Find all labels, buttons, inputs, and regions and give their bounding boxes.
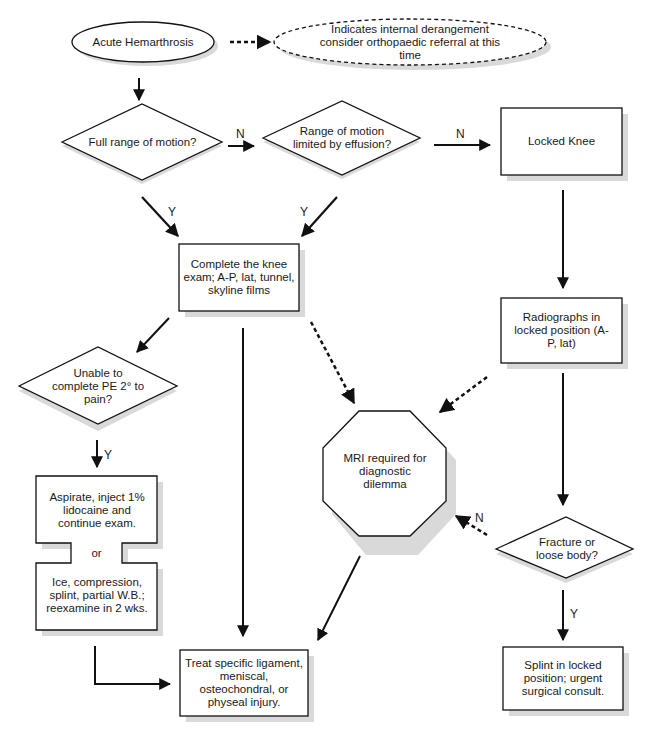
mri-label: MRI required for diagnostic dilemma	[338, 450, 432, 492]
note-node-label: Indicates internal derangement consider …	[318, 22, 502, 62]
full-rom-label: Full range of motion?	[85, 132, 200, 152]
splint-label: Splint in locked position; urgent surgic…	[513, 647, 613, 710]
edge-label-no-2: N	[456, 127, 465, 141]
rom-effusion-label: Range of motion limited by effusion?	[290, 124, 394, 152]
complete-exam-label: Complete the knee exam; A-P, lat, tunnel…	[183, 244, 295, 311]
start-node-label: Acute Hemarthrosis	[72, 32, 214, 52]
edge-label-yes-1: Y	[168, 205, 176, 219]
edge-label-yes-2: Y	[300, 205, 308, 219]
edge-label-yes-4: Y	[570, 607, 578, 621]
edge-label-yes-3: Y	[104, 448, 112, 462]
treat-label: Treat specific ligament, meniscal, osteo…	[182, 650, 306, 716]
locked-knee-label: Locked Knee	[501, 108, 622, 175]
or-label: or	[71, 543, 122, 563]
fracture-label: Fracture or loose body?	[525, 535, 609, 563]
edge-label-no-3: N	[475, 511, 484, 525]
radiographs-label: Radiographs in locked position (A-P, lat…	[511, 298, 612, 363]
aspirate-label: Aspirate, inject 1% lidocaine and contin…	[44, 488, 150, 532]
unable-pe-label: Unable to complete PE 2° to pain?	[50, 366, 146, 406]
ice-label: Ice, compression, splint, partial W.B.; …	[40, 573, 154, 617]
edge-label-no-1: N	[236, 127, 245, 141]
